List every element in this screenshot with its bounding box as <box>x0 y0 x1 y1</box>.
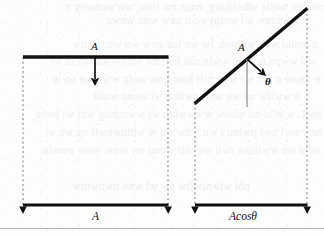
right-bottom-bar-label: Acosθ <box>229 210 257 222</box>
right-bottom-end-arrowhead <box>303 207 311 215</box>
right-incline-label: A <box>238 41 245 53</box>
right-normal-arrow <box>248 60 262 72</box>
figure-container: wothur wniw wheadoug, murt nw riow, wn w… <box>0 0 324 235</box>
left-bottom-end-arrowhead <box>164 207 172 215</box>
diagram-svg <box>0 0 324 235</box>
right-panel-group <box>191 8 311 214</box>
right-inclined-bar <box>195 8 308 103</box>
right-angle-label: θ <box>265 75 271 87</box>
left-bottom-start-arrowhead <box>19 207 27 215</box>
left-top-bar-label: A <box>91 40 98 52</box>
left-panel-group <box>19 57 172 214</box>
left-bottom-bar-label: A <box>92 210 99 222</box>
right-bottom-start-arrowhead <box>191 207 199 215</box>
